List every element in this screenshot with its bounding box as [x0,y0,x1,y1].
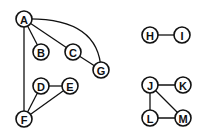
node-label: B [37,47,45,59]
nodes-layer: ABCGDEFHIJKLM [16,11,191,127]
node-label: F [21,114,28,126]
node-label: I [180,30,183,42]
node-d: D [33,78,49,94]
node-label: C [69,47,77,59]
node-l: L [142,110,158,126]
node-m: M [175,110,191,126]
graph-diagram: ABCGDEFHIJKLM [0,0,207,137]
node-label: D [37,81,45,93]
node-k: K [175,77,191,93]
node-h: H [142,27,158,43]
node-a: A [16,11,32,27]
node-label: E [66,81,73,93]
node-b: B [33,44,49,60]
node-label: G [97,65,106,77]
node-label: K [179,80,187,92]
node-f: F [16,111,32,127]
node-label: A [20,14,28,26]
node-j: J [142,77,158,93]
node-label: L [147,113,154,125]
node-c: C [65,44,81,60]
node-g: G [93,62,109,78]
node-e: E [62,78,78,94]
node-label: H [146,30,154,42]
node-label: J [147,80,153,92]
node-label: M [178,113,187,125]
node-i: I [174,27,190,43]
